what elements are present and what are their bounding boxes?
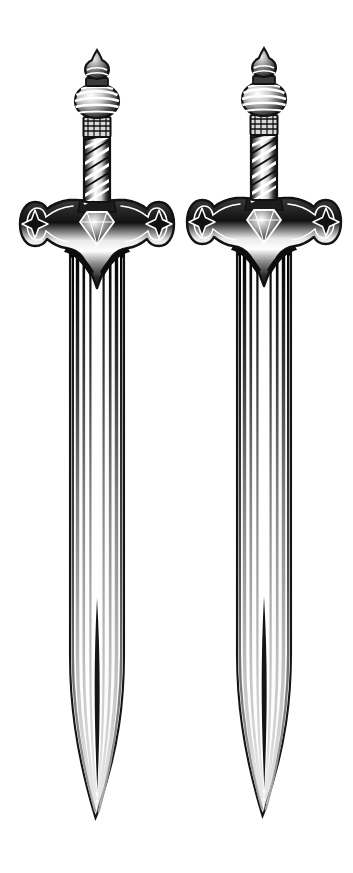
page-background (0, 0, 353, 873)
illustration-canvas: Two Medieval Longswords (0, 0, 353, 873)
sword-pair-drawing (0, 0, 353, 873)
